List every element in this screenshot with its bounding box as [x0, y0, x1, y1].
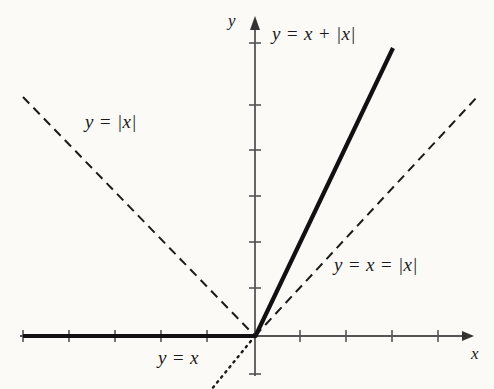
- curve-label-abs: y = |x|: [85, 112, 137, 131]
- curve-sum: [23, 48, 393, 337]
- curve-identity-right-branch: [255, 96, 478, 336]
- x-axis-arrow-icon: [462, 331, 474, 341]
- curve-sum-rising-segment: [255, 48, 393, 337]
- curve-abs-left-branch: [23, 97, 255, 336]
- curve-label-x-equals-abs: y = x = |x|: [334, 255, 418, 274]
- curve-identity-lower-branch: [211, 336, 255, 389]
- curve-label-sum: y = x + |x|: [272, 24, 356, 43]
- y-axis-label: y: [228, 12, 236, 29]
- plot-canvas: [0, 0, 494, 389]
- y-axis-arrow-icon: [250, 16, 260, 30]
- axis-group: [20, 16, 474, 376]
- curve-label-identity: y = x: [158, 348, 199, 367]
- x-axis-label: x: [471, 345, 479, 362]
- math-figure: y x y = x + |x| y = |x| y = x = |x| y = …: [0, 0, 494, 389]
